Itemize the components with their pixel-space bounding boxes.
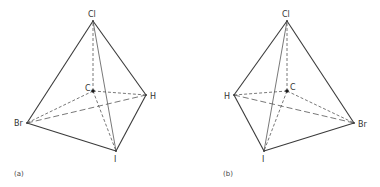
label-a-cl: Cl bbox=[88, 10, 96, 19]
edge-b-cl-i bbox=[264, 21, 287, 151]
edge-a-br-i bbox=[27, 123, 116, 151]
panel-label-b: (b) bbox=[223, 170, 233, 178]
edge-a-cl-i bbox=[93, 21, 116, 151]
edge-a-h-i bbox=[116, 95, 146, 151]
carbon-dot-b bbox=[285, 89, 289, 93]
label-a-i: I bbox=[114, 155, 116, 164]
label-b-br: Br bbox=[358, 120, 367, 129]
vertex-dot-b-cl bbox=[286, 20, 288, 22]
vertex-dot-a-h bbox=[145, 94, 147, 96]
label-b-cl: Cl bbox=[282, 10, 290, 19]
tetrahedron-b: Cl C H Br I (b) bbox=[223, 10, 367, 178]
vertex-dot-b-i bbox=[263, 150, 265, 152]
vertex-dot-b-br bbox=[353, 122, 355, 124]
label-a-h: H bbox=[150, 92, 156, 101]
vertex-dot-a-i bbox=[115, 150, 117, 152]
edge-b-h-i bbox=[234, 95, 264, 151]
bond-b-c-h bbox=[234, 91, 287, 95]
edge-b-cl-br bbox=[287, 21, 354, 123]
vertex-dot-a-br bbox=[26, 122, 28, 124]
edge-a-br-h bbox=[27, 95, 146, 123]
label-a-br: Br bbox=[14, 119, 23, 128]
edge-a-cl-h bbox=[93, 21, 146, 95]
vertex-dot-b-h bbox=[233, 94, 235, 96]
bond-b-c-i bbox=[264, 91, 287, 151]
label-b-h: H bbox=[224, 92, 230, 101]
tetrahedra-diagram: Cl C H Br I (a) Cl C H Br I (b) bbox=[0, 0, 380, 187]
label-b-c: C bbox=[290, 83, 296, 92]
bond-a-c-i bbox=[93, 91, 116, 151]
edge-b-i-br bbox=[264, 123, 354, 151]
carbon-dot-a bbox=[91, 89, 95, 93]
label-b-i: I bbox=[262, 155, 264, 164]
tetrahedron-a: Cl C H Br I (a) bbox=[14, 10, 156, 178]
panel-label-a: (a) bbox=[14, 170, 24, 178]
label-a-c: C bbox=[85, 84, 91, 93]
vertex-dot-a-cl bbox=[92, 20, 94, 22]
edge-a-cl-br bbox=[27, 21, 93, 123]
bond-a-c-h bbox=[93, 91, 146, 95]
edge-b-h-br bbox=[234, 95, 354, 123]
edge-b-cl-h bbox=[234, 21, 287, 95]
